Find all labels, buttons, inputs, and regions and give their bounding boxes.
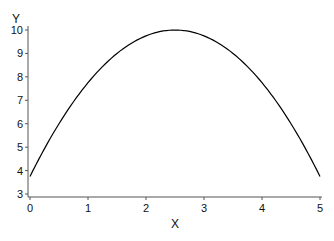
y-axis-label: Y xyxy=(12,12,20,26)
line-chart: 345678910 012345 Y X xyxy=(0,0,334,241)
y-tick-label: 9 xyxy=(17,47,23,59)
y-tick-label: 4 xyxy=(17,165,23,177)
y-tick-label: 6 xyxy=(17,118,23,130)
x-tick-label: 4 xyxy=(259,202,265,214)
y-axis: 345678910 xyxy=(11,24,28,200)
chart-canvas: 345678910 012345 Y X xyxy=(0,0,334,241)
data-line xyxy=(30,30,320,176)
x-tick-label: 0 xyxy=(27,202,33,214)
x-tick-label: 2 xyxy=(143,202,149,214)
x-tick-label: 1 xyxy=(85,202,91,214)
y-tick-label: 7 xyxy=(17,94,23,106)
y-tick-label: 8 xyxy=(17,71,23,83)
x-axis: 012345 xyxy=(27,197,323,214)
x-tick-label: 5 xyxy=(317,202,323,214)
y-tick-label: 3 xyxy=(17,188,23,200)
x-tick-label: 3 xyxy=(201,202,207,214)
x-axis-label: X xyxy=(171,217,179,231)
y-tick-label: 5 xyxy=(17,141,23,153)
